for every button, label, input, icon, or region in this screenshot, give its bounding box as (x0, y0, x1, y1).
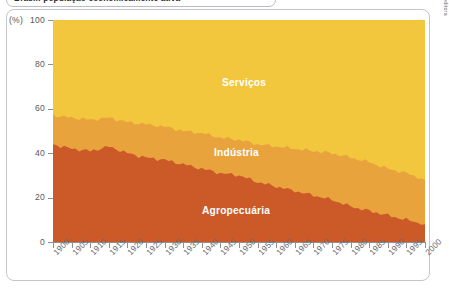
y-tick-label: 80 (35, 59, 45, 69)
y-tick-mark (48, 153, 53, 154)
image-credit: Caetano Rizão/Arquivo da editora (443, 0, 449, 16)
band-label-agropecuaria: Agropecuária (202, 205, 270, 216)
y-tick-label: 20 (35, 192, 45, 202)
y-tick-label: 100 (30, 15, 45, 25)
y-tick-mark (48, 64, 53, 65)
band-label-servicos: Serviços (222, 77, 266, 88)
y-tick-label: 0 (40, 237, 45, 247)
caption-text: Brasil: população economicamente ativa (14, 0, 180, 3)
y-tick-mark (48, 20, 53, 21)
plot-area: Serviços Indústria Agropecuária (53, 20, 425, 242)
caption-bar: Brasil: população economicamente ativa (6, 0, 276, 7)
y-tick-mark (48, 198, 53, 199)
y-axis-units: (%) (9, 15, 23, 25)
y-tick-label: 40 (35, 148, 45, 158)
y-tick-label: 60 (35, 103, 45, 113)
band-label-industria: Indústria (214, 147, 259, 158)
y-tick-mark (48, 109, 53, 110)
